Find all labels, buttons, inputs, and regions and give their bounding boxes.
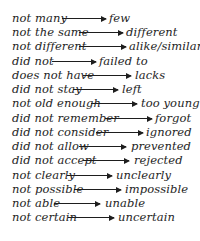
right-arrow-icon xyxy=(83,75,131,76)
negative-phrase: did not consider xyxy=(12,125,108,139)
list-item: did not stay left xyxy=(0,82,200,96)
list-item: not possible impossible xyxy=(0,182,200,196)
negative-phrase: did not remember xyxy=(12,111,119,125)
positive-phrase: too young xyxy=(141,96,200,110)
negative-phrase: not many xyxy=(12,11,67,25)
right-arrow-icon xyxy=(91,103,137,104)
positive-phrase: forgot xyxy=(155,111,191,125)
positive-phrase: different xyxy=(126,25,178,39)
right-arrow-icon xyxy=(79,46,126,47)
list-item: did not remember forgot xyxy=(0,111,200,125)
list-item: not able unable xyxy=(0,196,200,210)
negative-phrase: not old enough xyxy=(12,96,101,110)
negative-phrase: does not have xyxy=(12,68,94,82)
positive-phrase: unable xyxy=(105,196,145,210)
positive-phrase: uncertain xyxy=(118,210,175,224)
list-item: does not have lacks xyxy=(0,68,200,82)
right-arrow-icon xyxy=(79,32,123,33)
negative-phrase: did not stay xyxy=(12,82,82,96)
list-item: did not accept rejected xyxy=(0,153,200,167)
list-item: not many few xyxy=(0,11,200,25)
positive-phrase: alike/similar xyxy=(129,39,200,53)
right-arrow-icon xyxy=(62,18,106,19)
right-arrow-icon xyxy=(74,189,121,190)
positive-phrase: few xyxy=(109,11,130,25)
negative-phrase: did not allow xyxy=(12,139,89,153)
right-arrow-icon xyxy=(68,217,114,218)
negative-phrase: not clearly xyxy=(12,168,75,182)
right-arrow-icon xyxy=(83,160,129,161)
negative-phrase: not different xyxy=(12,39,87,53)
list-item: not different alike/similar xyxy=(0,39,200,53)
list-item: not clearly unclearly xyxy=(0,168,200,182)
positive-phrase: failed to xyxy=(99,54,148,68)
right-arrow-icon xyxy=(96,132,143,133)
positive-phrase: rejected xyxy=(134,153,183,167)
positive-phrase: impossible xyxy=(125,182,188,196)
list-item: did not allow prevented xyxy=(0,139,200,153)
positive-phrase: prevented xyxy=(131,139,191,153)
list-item: did not consider ignored xyxy=(0,125,200,139)
list-item: did not failed to xyxy=(0,54,200,68)
list-item: not old enough too young xyxy=(0,96,200,110)
right-arrow-icon xyxy=(79,146,126,147)
list-item: not certain uncertain xyxy=(0,210,200,224)
right-arrow-icon xyxy=(105,118,152,119)
negative-phrase: not able xyxy=(12,196,60,210)
right-arrow-icon xyxy=(67,175,112,176)
positive-phrase: lacks xyxy=(135,68,165,82)
positive-phrase: ignored xyxy=(146,125,192,139)
right-arrow-icon xyxy=(73,89,118,90)
negative-phrase: not possible xyxy=(12,182,83,196)
list-item: not the same different xyxy=(0,25,200,39)
negative-phrase: did not xyxy=(12,54,54,68)
right-arrow-icon xyxy=(52,61,96,62)
right-arrow-icon xyxy=(54,203,100,204)
negative-phrase: not the same xyxy=(12,25,89,39)
positive-phrase: left xyxy=(122,82,142,96)
positive-phrase: unclearly xyxy=(116,168,171,182)
